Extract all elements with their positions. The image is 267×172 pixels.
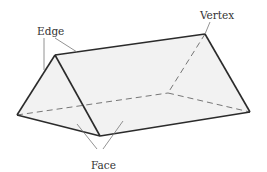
triangular-prism-diagram: Edge Vertex Face	[0, 0, 267, 172]
edge-leader-diagonal	[55, 38, 77, 52]
face-label: Face	[91, 159, 116, 171]
vertex-leader	[205, 22, 210, 34]
vertex-label: Vertex	[199, 9, 234, 21]
edge-label: Edge	[37, 25, 64, 37]
